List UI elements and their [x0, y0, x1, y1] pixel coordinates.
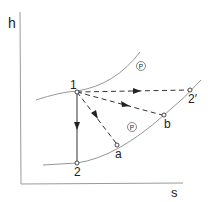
point-2: 2: [74, 161, 81, 179]
lower-isobar-curve: [43, 80, 201, 165]
arrow-1-b-icon: [121, 101, 130, 107]
svg-text:1: 1: [70, 78, 77, 92]
svg-text:b: b: [164, 117, 171, 131]
svg-text:2′: 2′: [188, 92, 198, 106]
arrow-1-2-icon: [74, 122, 80, 130]
process-1-b-line: [77, 92, 162, 115]
s-axis: [21, 183, 183, 184]
upper-isobar-curve: [36, 52, 140, 100]
arrow-1-2prime-icon: [133, 88, 141, 94]
upper-isobar-pressure-badge: P: [137, 62, 146, 71]
h-axis: [20, 12, 21, 184]
svg-text:P: P: [139, 63, 143, 70]
point-b: b: [162, 113, 171, 131]
point-2-prime: 2′: [188, 88, 198, 106]
axes: h s: [8, 12, 183, 200]
point-1: 1: [70, 78, 79, 94]
process-1-2prime-line: [77, 90, 188, 92]
h-s-diagram: h s P P 1: [0, 0, 210, 202]
svg-text:P: P: [130, 124, 134, 131]
arrow-1-a-icon: [91, 110, 98, 119]
svg-text:2: 2: [74, 165, 81, 179]
point-a: a: [115, 143, 122, 161]
lower-isobar-pressure-badge: P: [128, 123, 137, 132]
svg-text:a: a: [115, 147, 122, 161]
h-axis-label: h: [8, 15, 16, 31]
s-axis-label: s: [171, 185, 178, 200]
